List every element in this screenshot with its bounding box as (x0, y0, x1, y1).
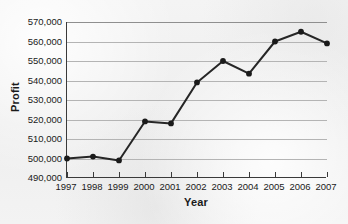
plot-area (66, 22, 326, 178)
y-axis-tick-label: 570,000 (20, 17, 62, 27)
x-axis-tick-labels: 1997199819992000200120022003200420052006… (0, 181, 348, 195)
data-line (67, 32, 327, 161)
y-axis-tick-label: 530,000 (20, 95, 62, 105)
y-axis-tick-label: 520,000 (20, 115, 62, 125)
data-point-marker (246, 71, 252, 77)
y-axis-tick-label: 540,000 (20, 76, 62, 86)
line-chart: Profit 490,000500,000510,000520,000530,0… (0, 0, 348, 224)
y-axis-tick-label: 500,000 (20, 154, 62, 164)
y-axis-tick-label: 510,000 (20, 134, 62, 144)
data-point-marker (194, 80, 200, 86)
data-series-layer (67, 22, 327, 178)
data-point-marker (168, 121, 174, 127)
data-point-marker (298, 29, 304, 35)
data-point-marker (272, 39, 278, 45)
data-point-marker (116, 158, 122, 164)
data-point-marker (64, 156, 70, 162)
data-point-marker (90, 154, 96, 160)
data-point-marker (324, 41, 330, 47)
data-point-marker (142, 119, 148, 125)
y-axis-tick-label: 560,000 (20, 37, 62, 47)
y-axis-tick-label: 550,000 (20, 56, 62, 66)
data-point-marker (220, 58, 226, 64)
x-axis-tick-mark (327, 172, 328, 177)
x-axis-title: Year (66, 196, 326, 208)
x-axis-tick-label: 2007 (306, 181, 346, 193)
